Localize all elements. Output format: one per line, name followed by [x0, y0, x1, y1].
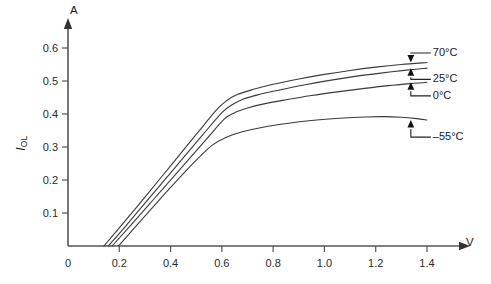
series-annotation-label: 70°C [433, 46, 458, 58]
series-annotation-label: 0°C [433, 89, 451, 101]
annotation-arrowhead [407, 120, 414, 128]
x-axis-tick-label: 0.8 [265, 257, 280, 269]
data-curve [112, 82, 427, 246]
annotation-leader-line [411, 77, 431, 79]
x-axis-tick-label: 0.4 [163, 257, 178, 269]
y-axis-tick-label: 0.6 [0, 42, 58, 54]
data-curve [104, 63, 427, 246]
annotation-leader-line [411, 129, 431, 137]
annotation-leader-line [411, 53, 431, 54]
data-curve [119, 117, 427, 246]
x-axis-tick-label: 0 [65, 257, 71, 269]
y-axis-tick-label: 0.4 [0, 108, 58, 120]
x-axis-tick-label: 0.2 [112, 257, 127, 269]
chart-plot-area [0, 0, 491, 284]
y-axis-tick-label: 0.3 [0, 141, 58, 153]
y-axis-tick-label: 0.2 [0, 174, 58, 186]
annotation-leader-line [411, 91, 431, 96]
x-axis-tick-label: 1.0 [317, 257, 332, 269]
y-axis-tick-label: 0.5 [0, 75, 58, 87]
y-axis-tick-label: 0.1 [0, 207, 58, 219]
x-axis-tick-label: 0.6 [214, 257, 229, 269]
x-axis-unit-label: V [466, 236, 474, 248]
x-axis-tick-label: 1.4 [419, 257, 434, 269]
y-axis-unit-label: A [70, 4, 78, 16]
series-annotation-label: –55°C [433, 130, 464, 142]
x-axis-tick-label: 1.2 [368, 257, 383, 269]
iv-characteristic-chart: A V IOL 00.20.40.60.81.01.21.4 0.10.20.3… [0, 0, 491, 284]
y-axis-arrowhead [64, 18, 72, 29]
series-annotation-label: 25°C [433, 72, 458, 84]
annotation-arrowhead [407, 55, 414, 63]
data-curve [108, 68, 427, 246]
